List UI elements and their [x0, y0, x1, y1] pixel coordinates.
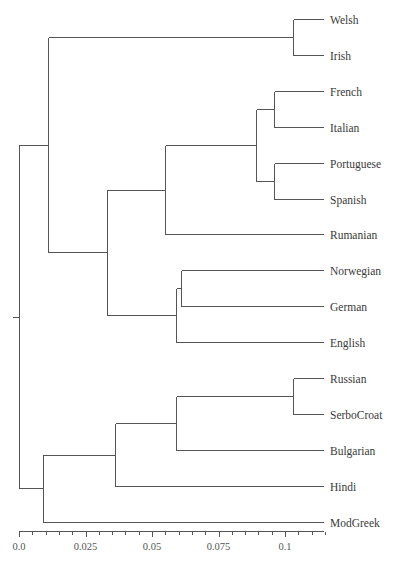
leaf-label-german: German	[330, 301, 367, 313]
dendrogram-branches	[13, 20, 325, 523]
x-tick-label: 0.05	[143, 541, 161, 552]
leaf-label-russian: Russian	[330, 373, 367, 385]
x-tick-label: 0.1	[278, 541, 291, 552]
leaf-label-irish: Irish	[330, 50, 351, 62]
leaf-label-english: English	[330, 337, 365, 350]
leaf-label-spanish: Spanish	[330, 194, 367, 207]
leaf-label-hindi: Hindi	[330, 481, 356, 493]
leaf-label-modgreek: ModGreek	[330, 517, 380, 529]
x-tick-label: 0.075	[207, 541, 231, 552]
x-axis: 0.00.0250.050.0750.1	[12, 532, 325, 552]
x-tick-label: 0.0	[12, 541, 25, 552]
leaf-label-italian: Italian	[330, 122, 360, 134]
leaf-label-serbocroat: SerboCroat	[330, 409, 383, 421]
leaf-label-welsh: Welsh	[330, 14, 359, 26]
x-tick-label: 0.025	[74, 541, 98, 552]
leaf-label-norwegian: Norwegian	[330, 265, 381, 278]
dendrogram: WelshIrishFrenchItalianPortugueseSpanish…	[0, 0, 401, 564]
leaf-labels: WelshIrishFrenchItalianPortugueseSpanish…	[330, 14, 383, 529]
leaf-label-portuguese: Portuguese	[330, 158, 381, 171]
leaf-label-rumanian: Rumanian	[330, 229, 378, 241]
leaf-label-french: French	[330, 86, 362, 98]
leaf-label-bulgarian: Bulgarian	[330, 445, 376, 458]
